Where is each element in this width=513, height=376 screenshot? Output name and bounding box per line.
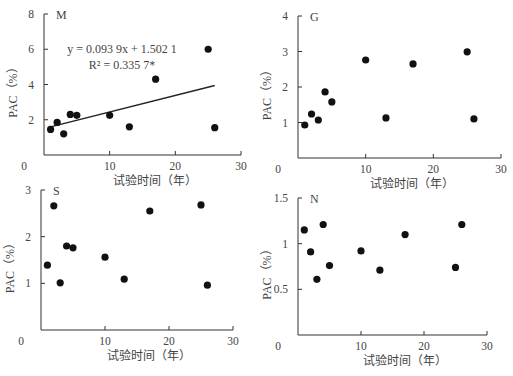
x-tick-label: 10 [104, 160, 116, 172]
data-point [69, 244, 76, 251]
panel-label: G [310, 10, 319, 24]
data-point [57, 279, 64, 286]
data-point [67, 111, 74, 118]
y-axis-title: PAC（%） [3, 237, 17, 293]
data-point [320, 221, 327, 228]
y-axis-title: PAC（%） [260, 243, 274, 299]
y-tick-label: 2 [28, 114, 34, 126]
x-tick-label: 20 [163, 335, 175, 347]
data-point [376, 267, 383, 274]
panel-label: N [310, 192, 319, 206]
data-point [301, 226, 308, 233]
data-point [321, 88, 328, 95]
data-point [211, 124, 218, 131]
y-tick-label: 1 [282, 238, 288, 250]
x-axis-title: 试验时间（年） [113, 173, 197, 188]
data-point [402, 231, 409, 238]
data-point [60, 130, 67, 137]
y-tick-label: 4 [28, 79, 34, 91]
scatter-figure: 24680102030试验时间（年）PAC（%）My = 0.093 9x + … [0, 0, 513, 376]
origin-label: 0 [275, 163, 281, 175]
y-tick-label: 1 [282, 117, 288, 129]
data-point [458, 221, 465, 228]
origin-label: 0 [275, 340, 281, 352]
y-tick-label: 2 [25, 231, 31, 243]
data-point [362, 56, 369, 63]
y-tick-label: 1 [25, 277, 31, 289]
data-point [63, 242, 70, 249]
y-tick-label: 1.5 [274, 192, 289, 204]
data-point [73, 112, 80, 119]
r-squared: R² = 0.335 7* [89, 58, 155, 72]
x-tick-label: 30 [235, 160, 247, 172]
data-point [470, 115, 477, 122]
x-tick-label: 30 [481, 340, 493, 352]
y-tick-label: 3 [282, 46, 288, 58]
x-tick-label: 20 [428, 163, 440, 175]
data-point [205, 46, 212, 53]
data-point [464, 48, 471, 55]
trendline [51, 85, 215, 126]
data-point [315, 116, 322, 123]
data-point [50, 202, 57, 209]
data-point [313, 276, 320, 283]
data-point [146, 207, 153, 214]
panel-g: 12340102030试验时间（年）PAC（%）G [260, 10, 507, 191]
data-point [106, 112, 113, 119]
data-point [121, 276, 128, 283]
data-point [204, 282, 211, 289]
regression-equation: y = 0.093 9x + 1.502 1 [67, 42, 177, 56]
y-tick-label: 6 [28, 43, 34, 55]
x-axis-title: 试验时间（年） [107, 348, 191, 363]
y-tick-label: 2 [282, 81, 288, 93]
y-tick-label: 3 [25, 184, 31, 196]
x-axis-title: 试验时间（年） [370, 176, 454, 191]
data-point [301, 121, 308, 128]
data-point [101, 254, 108, 261]
data-point [197, 201, 204, 208]
x-axis-title: 试验时间（年） [363, 353, 447, 368]
data-point [54, 119, 61, 126]
data-point [44, 262, 51, 269]
y-axis-title: PAC（%） [6, 61, 20, 117]
x-tick-label: 30 [495, 163, 507, 175]
x-tick-label: 20 [418, 340, 430, 352]
data-point [328, 98, 335, 105]
data-point [308, 110, 315, 117]
data-point [357, 247, 364, 254]
panel-m: 24680102030试验时间（年）PAC（%）My = 0.093 9x + … [6, 8, 247, 188]
x-tick-label: 30 [227, 335, 239, 347]
x-tick-label: 10 [99, 335, 111, 347]
y-tick-label: 8 [28, 8, 34, 20]
panel-s: 1230102030试验时间（年）PAC（%）S [3, 184, 239, 363]
panel-label: S [53, 184, 60, 198]
y-tick-label: 0.5 [274, 283, 289, 295]
origin-label: 0 [18, 335, 24, 347]
data-point [409, 60, 416, 67]
y-axis-title: PAC（%） [260, 64, 274, 120]
y-tick-label: 4 [282, 10, 288, 22]
x-tick-label: 10 [360, 163, 372, 175]
data-point [382, 114, 389, 121]
x-tick-label: 20 [170, 160, 182, 172]
panel-label: M [56, 8, 67, 22]
data-point [152, 76, 159, 83]
x-tick-label: 10 [355, 340, 367, 352]
data-point [307, 248, 314, 255]
data-point [326, 262, 333, 269]
data-point [47, 126, 54, 133]
data-point [126, 123, 133, 130]
panel-n: 0.511.50102030试验时间（年）PAC（%）N [260, 192, 493, 368]
data-point [452, 264, 459, 271]
origin-label: 0 [21, 160, 27, 172]
